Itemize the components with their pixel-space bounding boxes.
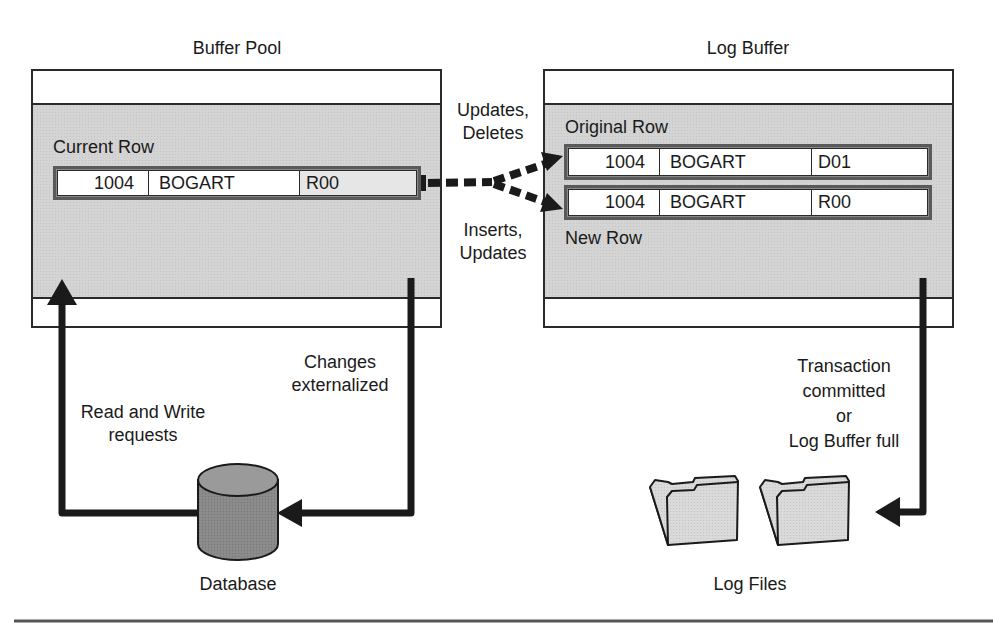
diagram-graphics bbox=[0, 0, 993, 632]
arrow-into-buffer-pool-icon bbox=[47, 279, 77, 305]
log-file-folder-icon bbox=[760, 476, 849, 545]
arrow-into-log-files-icon bbox=[875, 497, 900, 527]
row-copy-connector bbox=[421, 152, 563, 212]
arrow-into-database-icon bbox=[277, 499, 302, 527]
database-cylinder-icon bbox=[198, 464, 278, 560]
log-flush-line bbox=[895, 278, 923, 512]
log-file-folder-icon bbox=[650, 476, 738, 545]
